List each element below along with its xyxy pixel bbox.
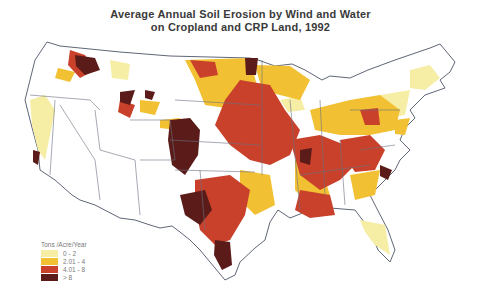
legend-label: 0 - 2: [63, 250, 76, 257]
legend-item: 4.01 - 8: [41, 266, 87, 273]
legend-label: 2.01 - 4: [63, 258, 85, 265]
legend-swatch: [41, 266, 58, 273]
legend-label: > 8: [63, 274, 72, 281]
legend-label: 4.01 - 8: [63, 266, 85, 273]
legend-title: Tons /Acre/Year: [41, 241, 87, 248]
legend-swatch: [41, 274, 58, 281]
legend-swatch: [41, 250, 58, 257]
legend-item: > 8: [41, 274, 87, 281]
legend-item: 2.01 - 4: [41, 258, 87, 265]
map-legend: Tons /Acre/Year 0 - 2 2.01 - 4 4.01 - 8 …: [41, 241, 87, 282]
legend-item: 0 - 2: [41, 250, 87, 257]
legend-swatch: [41, 258, 58, 265]
